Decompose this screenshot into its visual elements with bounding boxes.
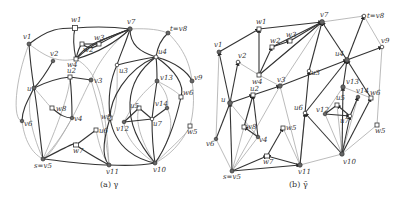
label-b-w8: w8 <box>246 123 257 131</box>
label-u3: u3 <box>119 67 129 75</box>
node-b-v1 <box>217 50 221 54</box>
node-v12 <box>122 120 126 124</box>
node-b-v11 <box>298 163 302 167</box>
label-v3: v3 <box>94 77 103 85</box>
label-v8: t=v8 <box>170 25 188 33</box>
label-b-u4: u4 <box>335 50 344 58</box>
label-v1: v1 <box>23 33 31 41</box>
node-v7 <box>128 27 132 31</box>
node-b-u6 <box>303 111 307 115</box>
label-b-v8: t=v8 <box>367 12 385 20</box>
label-v10: v10 <box>153 166 166 174</box>
node-w1 <box>73 26 78 31</box>
label-b-v12: v12 <box>316 106 329 114</box>
label-w7: w7 <box>73 147 84 155</box>
caption-a: (a) γ <box>100 180 119 189</box>
node-b-v3 <box>278 84 282 88</box>
node-w8 <box>50 106 54 110</box>
node-b-w2 <box>270 45 274 49</box>
node-b-u4 <box>345 58 350 63</box>
label-w6: w6 <box>183 89 194 97</box>
label-b-v13: v13 <box>346 78 359 86</box>
node-b-w4 <box>257 73 261 77</box>
label-v11: v11 <box>106 168 119 176</box>
label-v14: v14 <box>155 100 168 108</box>
label-b-w6: w6 <box>370 89 381 97</box>
label-w5b: w5 <box>101 113 112 121</box>
label-b-w2: w2 <box>270 37 281 45</box>
label-b-u6: u6 <box>294 104 304 112</box>
label-b-u2: u2 <box>250 85 260 93</box>
node-b-w5b <box>281 126 285 130</box>
label-v9: v9 <box>194 74 203 82</box>
figure-a-graph: w1 v7 t=v8 v1 w3 w2 v2 w4 u4 u3 v9 u2 v3… <box>16 16 203 189</box>
label-b-u: u <box>221 96 226 104</box>
node-v5 <box>41 157 45 161</box>
figure-b-graph: w1 v7 t=v8 v1 w3 w2 v2 w4 u4 u3 v9 u2 v3… <box>206 11 390 189</box>
label-u6: u6 <box>99 127 109 135</box>
caption-b: (b) γ̄ <box>289 180 308 189</box>
node-b-v8 <box>362 14 366 18</box>
node-b-v10 <box>340 152 344 156</box>
label-b-v14: v14 <box>356 87 369 95</box>
label-b-w5: w5 <box>375 127 386 135</box>
label-u7: u7 <box>153 120 163 128</box>
label-v7: v7 <box>127 18 136 26</box>
label-b-w3: w3 <box>286 31 297 39</box>
label-b-v5: s=v5 <box>223 173 241 181</box>
node-v2 <box>51 59 55 63</box>
node-b-u5 <box>335 103 339 107</box>
label-b-v1: v1 <box>214 41 222 49</box>
node-u6 <box>94 128 98 132</box>
label-b-w7: w7 <box>263 158 274 166</box>
node-v10 <box>153 161 157 165</box>
graph-figure: w1 v7 t=v8 v1 w3 w2 v2 w4 u4 u3 v9 u2 v3… <box>0 0 405 197</box>
node-v1 <box>27 42 31 46</box>
label-w3: w3 <box>94 34 105 42</box>
label-b-v3: v3 <box>277 76 286 84</box>
label-w2: w2 <box>83 46 94 54</box>
label-u4: u4 <box>158 48 167 56</box>
node-b-u <box>228 101 233 106</box>
node-w3 <box>97 42 101 46</box>
label-u5: u5 <box>130 102 140 110</box>
node-v11 <box>107 163 111 167</box>
label-b-v10: v10 <box>343 158 356 166</box>
node-b-v9 <box>380 45 384 49</box>
node-b-v6 <box>214 137 218 141</box>
node-v13 <box>155 79 159 83</box>
label-w8: w8 <box>56 105 67 113</box>
label-b-w1: w1 <box>256 18 266 26</box>
node-b-v14 <box>356 95 360 99</box>
label-b-v4: v4 <box>259 136 267 144</box>
label-w1: w1 <box>71 16 81 24</box>
node-u2 <box>68 75 72 79</box>
label-v2: v2 <box>50 50 59 58</box>
label-b-u5: u5 <box>336 94 346 102</box>
label-b-v2: v2 <box>238 52 247 60</box>
node-b-v7 <box>320 20 325 25</box>
label-b-v6: v6 <box>206 140 215 148</box>
label-b-v7: v7 <box>320 11 329 19</box>
node-v3 <box>89 78 93 82</box>
label-b-u7: u7 <box>340 117 350 125</box>
label-v5: s=v5 <box>34 162 52 170</box>
node-b-w3 <box>288 39 292 43</box>
label-u2: u2 <box>67 67 77 75</box>
figure-a-nodes <box>20 26 194 168</box>
label-b-v9: v9 <box>381 37 390 45</box>
label-u: u <box>27 85 32 93</box>
label-w5: w5 <box>187 128 198 136</box>
label-v13: v13 <box>160 74 173 82</box>
node-b-v13 <box>341 85 345 89</box>
label-v6: v6 <box>24 120 33 128</box>
label-b-w5b: w5 <box>286 124 297 132</box>
node-u <box>32 86 36 90</box>
label-v4: v4 <box>74 115 82 123</box>
label-b-v11: v11 <box>298 168 311 176</box>
node-b-w1 <box>257 27 261 31</box>
node-b-u2 <box>251 93 255 97</box>
label-v12: v12 <box>116 125 129 133</box>
label-b-u3: u3 <box>311 69 321 77</box>
node-b-v2 <box>236 60 240 64</box>
